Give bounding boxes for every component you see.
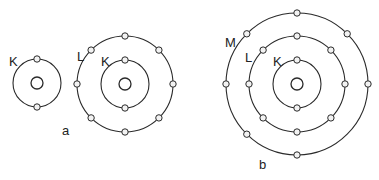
electron: [294, 33, 300, 39]
electron: [156, 47, 162, 53]
electron: [365, 81, 371, 87]
electron: [294, 57, 300, 63]
electron: [244, 131, 250, 137]
shell-label: K: [101, 54, 110, 69]
electron: [88, 115, 94, 121]
shell-label: K: [273, 54, 282, 69]
electron: [342, 81, 348, 87]
atom-cl: KLM: [223, 10, 371, 158]
nucleus: [31, 77, 43, 89]
atom-he: K: [9, 54, 61, 110]
electron: [170, 81, 176, 87]
electron: [260, 47, 266, 53]
electron: [260, 115, 266, 121]
nucleus: [119, 78, 131, 90]
shell-label: L: [77, 49, 84, 64]
electron: [294, 10, 300, 16]
nucleus: [291, 78, 303, 90]
electron: [122, 57, 128, 63]
shell-label: M: [225, 35, 236, 50]
caption-a: a: [62, 123, 70, 138]
electron: [34, 56, 40, 62]
caption-b: b: [259, 157, 266, 172]
electron: [88, 47, 94, 53]
electron: [122, 33, 128, 39]
electron: [294, 105, 300, 111]
electron: [344, 31, 350, 37]
shell-label: L: [245, 50, 252, 65]
electron: [246, 81, 252, 87]
electron: [294, 152, 300, 158]
shell-diagram-figure: KKLKLMab: [0, 0, 379, 180]
atom-ne: KL: [74, 33, 176, 135]
electron: [328, 115, 334, 121]
electron: [74, 81, 80, 87]
electron: [156, 115, 162, 121]
electron: [122, 105, 128, 111]
electron: [34, 104, 40, 110]
electron: [244, 31, 250, 37]
electron: [223, 81, 229, 87]
electron: [328, 47, 334, 53]
electron: [294, 129, 300, 135]
diagram-canvas: KKLKLMab: [0, 0, 379, 180]
electron: [122, 129, 128, 135]
shell-label: K: [9, 54, 18, 69]
